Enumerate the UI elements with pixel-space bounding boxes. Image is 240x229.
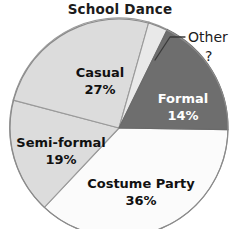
casual-value: 27%	[84, 82, 115, 97]
casual-label: Casual	[76, 65, 125, 80]
semi-formal-label: Semi-formal	[16, 135, 105, 150]
pie-slices-group	[10, 18, 228, 229]
formal-value: 14%	[167, 108, 198, 123]
semi-formal-value: 19%	[45, 152, 76, 167]
formal-label: Formal	[158, 91, 208, 106]
costume-party-label: Costume Party	[87, 176, 195, 191]
other-label: Other	[188, 29, 228, 45]
pie-chart-svg: Other ? Casual 27% Formal 14% Semi-forma…	[0, 0, 240, 229]
pie-chart-figure: School Dance Other ? Casual	[0, 0, 240, 229]
other-value: ?	[205, 48, 212, 64]
costume-party-value: 36%	[125, 193, 156, 208]
